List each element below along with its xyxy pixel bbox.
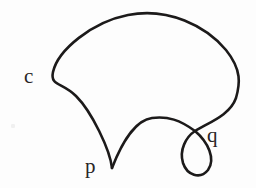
curve-figure: c p q: [0, 0, 256, 188]
curve-label-c: c: [24, 66, 33, 87]
paper-speck: [11, 124, 15, 128]
curve-drawing: [0, 0, 256, 188]
cusp-label-p: p: [85, 156, 96, 177]
loop-and-lower-arc-path: [112, 118, 211, 176]
crossing-label-q: q: [207, 125, 218, 146]
